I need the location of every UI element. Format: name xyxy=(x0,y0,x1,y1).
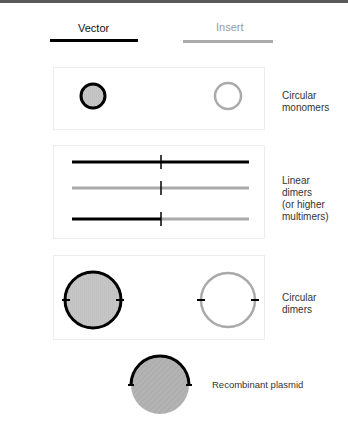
vector-insert-linear-icon xyxy=(72,212,249,226)
label-line: multimers) xyxy=(282,211,329,223)
label-circular-dimers: Circular dimers xyxy=(282,292,316,316)
label-line: dimers xyxy=(282,187,329,199)
label-line: Linear xyxy=(282,175,329,187)
vector-vector-linear-icon xyxy=(72,155,249,169)
label-linear-dimers: Linear dimers (or higher multimers) xyxy=(282,175,329,223)
label-circular-monomers: Circular monomers xyxy=(282,90,329,114)
label-recombinant-plasmid: Recombinant plasmid xyxy=(212,379,303,391)
insert-insert-linear-icon xyxy=(72,181,249,195)
label-line: monomers xyxy=(282,102,329,114)
label-line: Circular xyxy=(282,292,316,304)
label-line: dimers xyxy=(282,304,316,316)
label-line: (or higher xyxy=(282,199,329,211)
label-line: Circular xyxy=(282,90,329,102)
insert-dimer-icon xyxy=(197,273,259,327)
vector-dimer-icon xyxy=(62,272,124,328)
recombinant-plasmid-icon xyxy=(128,356,192,414)
vector-monomer-icon xyxy=(81,84,105,108)
insert-monomer-icon xyxy=(215,83,241,109)
